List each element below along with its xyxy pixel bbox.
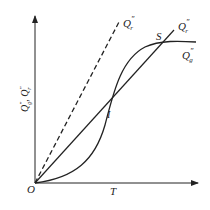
curve-label: Q″g — [182, 47, 194, 64]
x-axis-label: T — [110, 185, 117, 197]
dashed-line-label: Q″r — [123, 15, 135, 32]
diagram-canvas: Q″r Q″r Q″g S I O T Q″g, Q″r — [0, 0, 210, 210]
point-i-label: I — [106, 109, 111, 120]
solid-removal-line — [35, 30, 174, 183]
dashed-removal-line — [35, 22, 119, 183]
y-axis-label: Q″g, Q″r — [18, 87, 32, 112]
origin-label: O — [27, 183, 35, 195]
solid-line-label: Q″r — [178, 18, 190, 35]
generation-curve — [35, 41, 196, 183]
point-s-label: S — [156, 30, 162, 42]
